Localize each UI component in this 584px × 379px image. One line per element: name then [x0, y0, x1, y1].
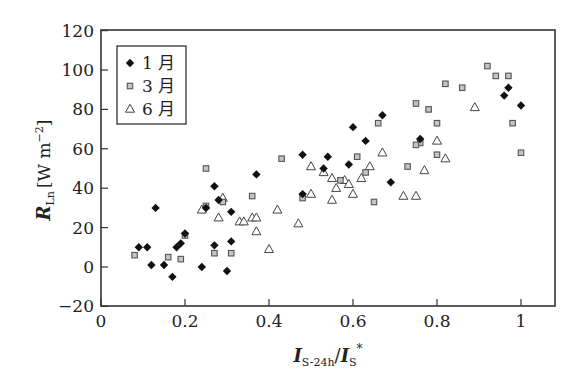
y-tick-label: −20: [58, 296, 94, 316]
data-point: [378, 148, 387, 156]
scatter-chart: −20020406080100120 00.20.40.60.81 1 月3 月…: [0, 0, 584, 379]
data-point: [294, 219, 303, 227]
y-tick-label: 60: [72, 139, 94, 159]
data-point: [198, 263, 206, 271]
x-tick-label: 0.2: [171, 311, 198, 331]
x-axis-ticks: 00.20.40.60.81: [96, 299, 527, 331]
y-tick-label: 100: [62, 60, 94, 80]
data-point: [227, 208, 235, 216]
legend-marker-square-icon: [127, 83, 133, 89]
y-tick-label: 0: [83, 257, 94, 277]
data-point: [307, 189, 316, 197]
data-point: [168, 273, 176, 281]
data-point: [363, 170, 369, 176]
legend-label: 1 月: [142, 53, 175, 73]
data-point: [375, 120, 381, 126]
data-point: [361, 137, 369, 145]
data-point: [504, 84, 512, 92]
svg-text:RLn[W m−2]: RLn[W m−2]: [33, 120, 57, 222]
series-diamond: [135, 84, 526, 282]
data-point: [143, 243, 151, 251]
data-point: [434, 120, 440, 126]
x-tick-label: 0.4: [255, 311, 282, 331]
data-point: [433, 136, 442, 144]
data-point: [132, 252, 138, 258]
data-point: [328, 174, 337, 182]
data-point: [151, 204, 159, 212]
data-point: [249, 193, 255, 199]
data-point: [518, 150, 524, 156]
data-point: [307, 162, 316, 170]
data-point: [493, 73, 499, 79]
x-tick-label: 0: [96, 311, 107, 331]
x-tick-label: 0.6: [339, 311, 366, 331]
data-point: [506, 73, 512, 79]
data-point: [178, 256, 184, 262]
data-point: [203, 166, 209, 172]
y-tick-label: 20: [72, 218, 94, 238]
data-point: [227, 237, 235, 245]
data-point: [434, 152, 440, 158]
series-square: [132, 63, 524, 262]
legend-label: 3 月: [142, 76, 175, 96]
data-point: [485, 63, 491, 68]
data-point: [324, 152, 332, 160]
data-point: [210, 182, 218, 190]
data-point: [160, 261, 168, 269]
data-point: [399, 191, 408, 199]
data-point: [470, 103, 479, 111]
data-point: [349, 123, 357, 131]
x-tick-label: 0.8: [423, 311, 450, 331]
data-point: [500, 91, 508, 99]
data-point: [413, 142, 419, 148]
data-point: [332, 183, 341, 191]
data-point: [420, 166, 429, 174]
data-point: [459, 85, 465, 91]
data-point: [387, 178, 395, 186]
data-point: [298, 151, 306, 159]
data-point: [378, 111, 386, 119]
data-point: [517, 101, 525, 109]
data-point: [165, 254, 171, 260]
data-point: [365, 162, 374, 170]
data-point: [210, 241, 218, 249]
legend-label: 6 月: [142, 99, 175, 119]
data-point: [338, 178, 344, 184]
y-tick-label: 40: [72, 178, 94, 198]
data-point: [413, 101, 419, 107]
data-point: [135, 243, 143, 251]
data-point: [212, 250, 218, 256]
data-points: [132, 63, 525, 281]
data-point: [265, 244, 274, 252]
data-point: [371, 199, 377, 205]
legend: 1 月3 月6 月: [117, 46, 186, 124]
data-point: [252, 170, 260, 178]
data-point: [214, 213, 223, 221]
y-tick-label: 120: [62, 21, 94, 41]
data-point: [223, 267, 231, 275]
data-point: [510, 120, 515, 126]
y-tick-label: 80: [72, 99, 94, 119]
data-point: [345, 160, 353, 168]
data-point: [354, 154, 360, 160]
svg-text:IS-24h/IS*: IS-24h/IS*: [292, 342, 362, 369]
data-point: [319, 164, 327, 172]
data-point: [426, 107, 432, 113]
data-point: [252, 227, 261, 235]
data-point: [412, 191, 421, 199]
data-point: [328, 195, 337, 203]
data-point: [147, 261, 155, 269]
data-point: [279, 156, 285, 162]
x-tick-label: 1: [516, 311, 527, 331]
data-point: [441, 154, 450, 162]
data-point: [228, 250, 234, 256]
x-axis-title: IS-24h/IS*: [292, 342, 362, 369]
data-point: [405, 164, 411, 170]
data-point: [443, 81, 449, 87]
data-point: [273, 205, 282, 213]
y-axis-title: RLn[W m−2]: [33, 120, 57, 222]
data-point: [349, 189, 358, 197]
